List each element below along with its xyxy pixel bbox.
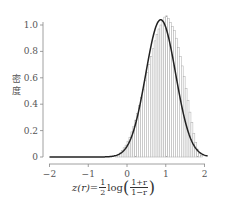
histogram-bar [164, 17, 166, 157]
open-paren: ( [123, 180, 129, 196]
histogram-bar [174, 30, 176, 157]
histogram-bar [139, 106, 141, 157]
histogram-bar [172, 26, 174, 157]
y-tick-label: 0.8 [24, 46, 39, 56]
half-denominator: 2 [100, 188, 105, 197]
histogram-bar [158, 29, 160, 157]
y-tick-label: 0.6 [24, 73, 39, 83]
histogram-bar [175, 38, 177, 157]
histogram-bar [166, 16, 168, 157]
histogram-bar [177, 47, 179, 157]
histogram-bar [143, 90, 145, 157]
histogram-bar [156, 34, 158, 157]
histogram-bar [162, 21, 164, 157]
y-tick-label: 1.0 [24, 20, 39, 30]
y-axis-label: 密 [12, 73, 21, 84]
histogram-bar [146, 73, 148, 157]
xlabel-half-fraction: 1 2 [99, 178, 106, 197]
y-axis-ticks: 00.20.40.60.81.0 [24, 20, 43, 162]
xlabel-log: log [107, 182, 123, 193]
xlabel-ratio-fraction: 1+r 1−r [130, 178, 148, 197]
histogram-bar [152, 49, 154, 157]
half-numerator: 1 [99, 178, 106, 188]
histogram-bar [150, 57, 152, 157]
x-tick-label: 2 [202, 169, 208, 179]
y-axis-label-2: 度 [12, 85, 21, 96]
xlabel-lhs: z(r)= [72, 182, 98, 193]
histogram-bar [179, 57, 181, 157]
ratio-numerator: 1+r [130, 178, 148, 188]
y-tick-label: 0 [32, 152, 38, 162]
y-tick-label: 0.4 [24, 99, 39, 109]
histogram-bar [148, 65, 150, 157]
y-tick-label: 0.2 [24, 126, 38, 136]
histogram-bar [144, 80, 146, 157]
x-axis-ticks: −2−1012 [43, 164, 208, 179]
x-axis-label: z(r)= 1 2 log ( 1+r 1−r ) [72, 178, 155, 197]
x-tick-label: −2 [43, 169, 56, 179]
histogram-bar [141, 98, 143, 157]
histogram-bar [154, 41, 156, 157]
x-tick-label: 1 [163, 169, 169, 179]
histogram-bar [160, 25, 162, 157]
histogram-bar [201, 156, 203, 157]
close-paren: ) [149, 180, 155, 196]
ratio-denominator: 1−r [131, 188, 147, 197]
